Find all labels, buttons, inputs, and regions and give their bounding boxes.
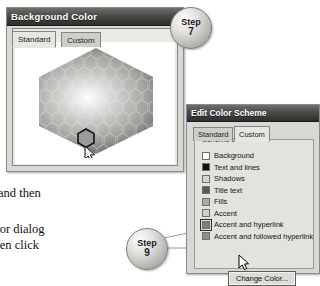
scheme-color-row[interactable]: Background [202,150,309,162]
body-text-line-3: then click [0,238,39,253]
scheme-color-row[interactable]: Accent [202,208,309,220]
hexagon-color-picker[interactable] [15,42,175,164]
scheme-color-label: Accent and followed hyperlink [214,232,313,241]
edit-color-scheme-titlebar: Edit Color Scheme [187,105,319,122]
scheme-color-label: Accent [214,209,237,218]
body-text-line-2: olor dialog [0,222,45,237]
background-color-tabpanel: Colors: [12,28,178,166]
scheme-color-row[interactable]: Fills [202,196,309,208]
scheme-colors-groupbox: Scheme colors Background Text and lines … [194,139,314,269]
scheme-colors-list: Background Text and lines Shadows Title … [202,150,309,242]
background-color-dialog: Background Color Standard Custom Colors: [6,7,184,172]
tab-custom-scheme-label: Custom [239,130,265,139]
tab-standard-scheme-label: Standard [198,130,228,139]
change-color-button[interactable]: Change Color... [228,271,296,286]
tab-standard-scheme[interactable]: Standard [193,127,233,141]
scheme-color-label: Shadows [214,174,245,183]
scheme-color-row[interactable]: Shadows [202,173,309,185]
color-swatch-title-text[interactable] [202,186,210,194]
scheme-color-row-selected[interactable]: Accent and hyperlink [202,219,309,231]
tab-custom-background[interactable]: Custom [61,32,101,47]
scheme-color-row[interactable]: Text and lines [202,162,309,174]
callout-step-9-number: 9 [144,248,150,258]
scheme-color-row[interactable]: Title text [202,185,309,197]
color-swatch-accent-and-hyperlink[interactable] [202,221,210,229]
color-swatch-background[interactable] [202,152,210,160]
edit-color-scheme-tabstrip: Standard Custom [193,126,319,140]
callout-step-7-number: 7 [188,27,194,37]
tab-custom-background-label: Custom [67,36,95,45]
background-color-titlebar: Background Color [7,8,183,26]
tab-standard-background-label: Standard [18,35,50,44]
color-swatch-shadows[interactable] [202,175,210,183]
scheme-color-label: Title text [214,186,242,195]
background-color-title: Background Color [11,11,97,22]
color-swatch-fills[interactable] [202,198,210,206]
edit-color-scheme-dialog: Edit Color Scheme Standard Custom Scheme… [186,104,320,274]
callout-step-9: Step 9 [126,228,168,270]
color-swatch-text-and-lines[interactable] [202,163,210,171]
edit-color-scheme-title: Edit Color Scheme [191,108,267,118]
color-swatch-accent-and-followed-hyperlink[interactable] [202,232,210,240]
color-swatch-accent[interactable] [202,209,210,217]
callout-step-7: Step 7 [170,7,212,49]
scheme-color-label: Accent and hyperlink [214,220,284,229]
honeycomb-swatch-grid[interactable] [15,42,175,158]
selected-swatch[interactable] [78,129,94,147]
body-text-line-1: and then [0,186,41,201]
scheme-color-label: Text and lines [214,163,260,172]
change-color-button-label: Change Color... [236,274,288,283]
scheme-color-label: Background [214,151,254,160]
scheme-color-label: Fills [214,197,227,206]
tab-standard-background[interactable]: Standard [12,31,56,48]
tab-custom-scheme[interactable]: Custom [234,126,270,142]
scheme-color-row[interactable]: Accent and followed hyperlink [202,231,309,243]
